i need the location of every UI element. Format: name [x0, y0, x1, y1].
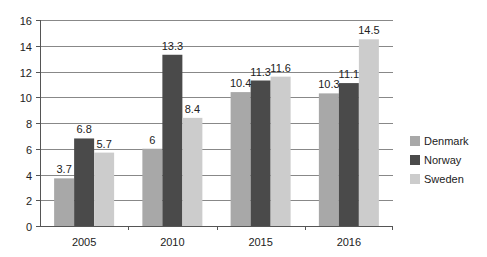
legend-swatch-sweden [410, 174, 420, 184]
y-tick-label: 14 [20, 41, 32, 53]
y-tick-label: 10 [20, 92, 32, 104]
legend-label: Denmark [424, 135, 469, 147]
legend: Denmark Norway Sweden [410, 131, 469, 188]
legend-swatch-norway [410, 155, 420, 165]
legend-label: Sweden [424, 173, 464, 185]
data-label: 11.6 [270, 62, 291, 74]
bar-sweden-2010 [182, 118, 202, 226]
legend-label: Norway [424, 154, 461, 166]
data-label: 13.3 [162, 40, 183, 52]
bar-norway-2016 [339, 83, 359, 226]
data-label: 5.7 [96, 138, 111, 150]
bar-denmark-2010 [142, 149, 162, 226]
data-label: 14.5 [358, 24, 379, 36]
y-tick-label: 8 [26, 118, 32, 130]
bar-sweden-2016 [359, 39, 379, 226]
bar-norway-2005 [74, 138, 94, 226]
bar-denmark-2005 [54, 178, 74, 226]
legend-item-denmark: Denmark [410, 131, 469, 150]
legend-item-norway: Norway [410, 150, 469, 169]
bar-sweden-2015 [271, 77, 291, 226]
bar-denmark-2016 [319, 93, 339, 226]
y-tick-label: 0 [26, 221, 32, 233]
legend-item-sweden: Sweden [410, 169, 469, 188]
data-label: 11.1 [339, 68, 360, 80]
x-tick-label: 2010 [160, 236, 184, 248]
bars [54, 39, 379, 226]
y-tick-label: 16 [20, 15, 32, 27]
y-tick-label: 12 [20, 67, 32, 79]
bar-denmark-2015 [231, 92, 251, 226]
x-tick-label: 2016 [337, 236, 361, 248]
y-tick-label: 4 [26, 170, 32, 182]
x-tick-label: 2005 [72, 236, 96, 248]
data-label: 11.3 [250, 66, 271, 78]
bar-norway-2015 [251, 81, 271, 226]
data-label: 6 [149, 134, 155, 146]
bar-sweden-2005 [94, 153, 114, 226]
data-label: 8.4 [185, 103, 200, 115]
data-label: 3.7 [56, 163, 71, 175]
bar-chart: 02468101214162005201020152016 3.76.85.76… [0, 0, 487, 257]
y-tick-label: 6 [26, 144, 32, 156]
data-label: 10.4 [230, 77, 251, 89]
y-tick-label: 2 [26, 195, 32, 207]
data-label: 6.8 [76, 123, 91, 135]
bar-norway-2010 [162, 55, 182, 226]
legend-swatch-denmark [410, 136, 420, 146]
data-label: 10.3 [318, 78, 339, 90]
x-tick-label: 2015 [248, 236, 272, 248]
